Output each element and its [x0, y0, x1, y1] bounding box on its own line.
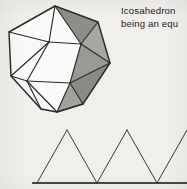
figure-caption: Icosahedron being an equ [121, 4, 187, 30]
caption-line-2: being an equ [121, 17, 187, 30]
net-edge-1-up [37, 130, 67, 183]
net-edge-1-down [67, 130, 97, 183]
net-edge-3-up [157, 130, 187, 183]
net-edge-2-down [127, 130, 157, 183]
triangle-strip-figure [0, 122, 187, 189]
icosahedron-figure [0, 0, 120, 125]
triangle-strip-edges [33, 130, 187, 183]
caption-line-1: Icosahedron [121, 4, 187, 17]
figure-page: Icosahedron being an equ [0, 0, 187, 189]
net-edge-2-up [97, 130, 127, 183]
